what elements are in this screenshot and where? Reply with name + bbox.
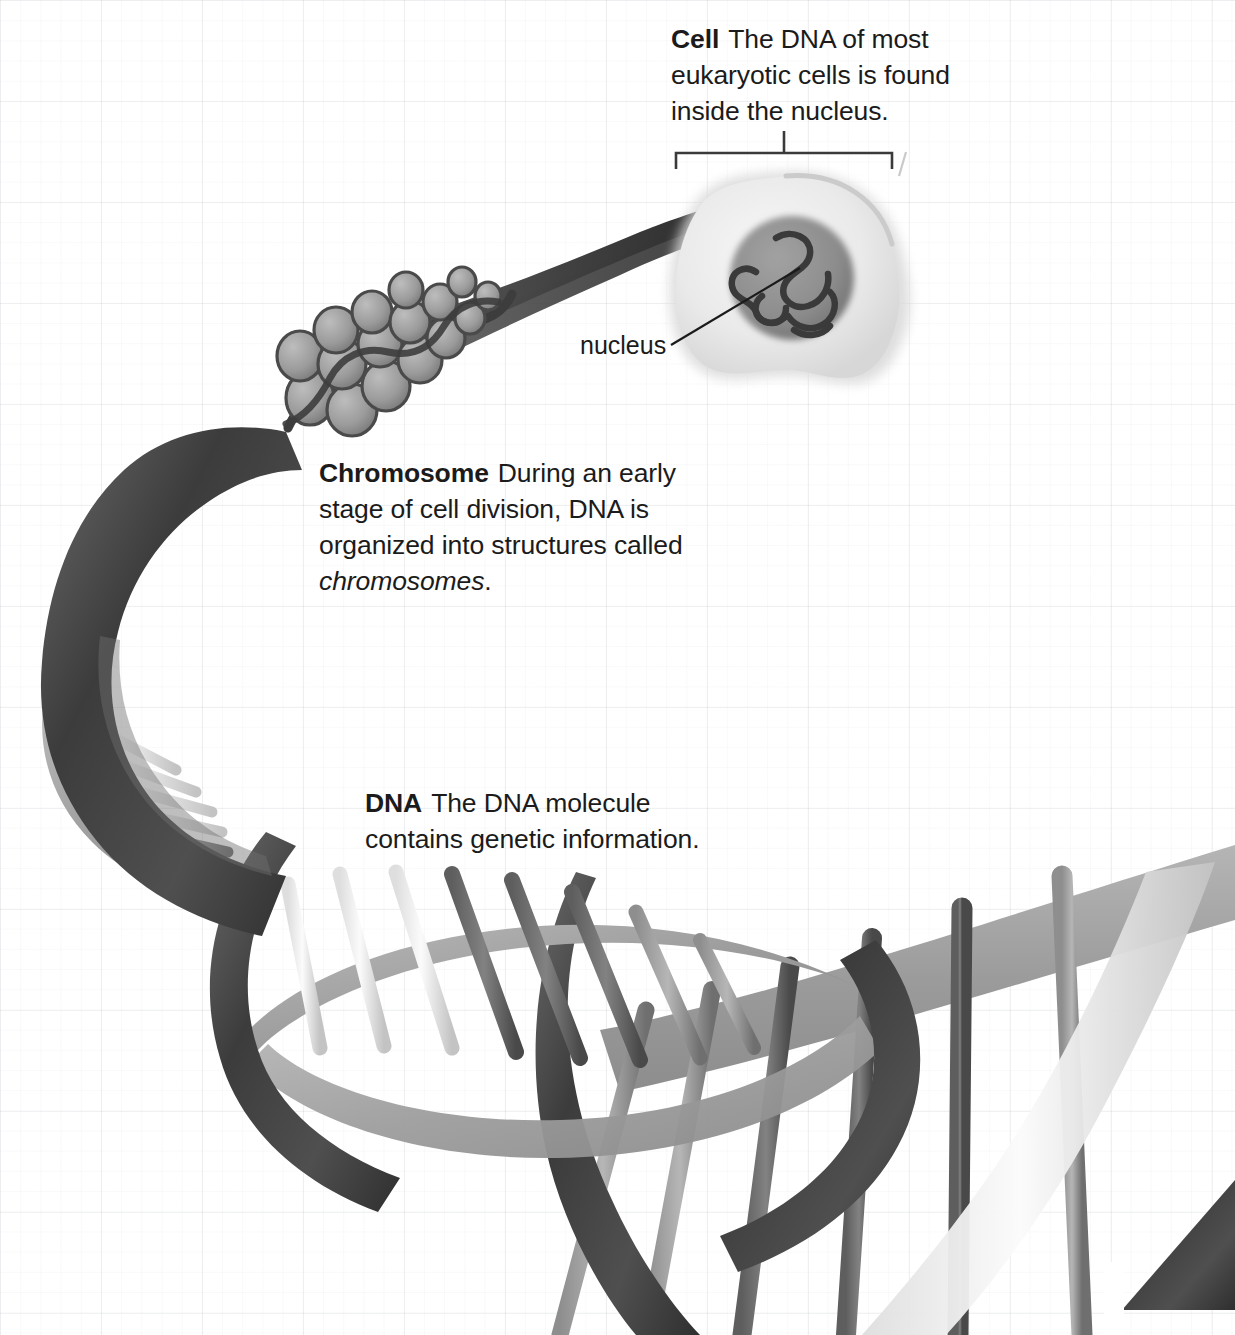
dna-base-pairs-mid [288, 872, 754, 1060]
cell-bracket [676, 131, 892, 169]
caption-chromosome-italic: chromosomes [319, 566, 484, 596]
bracket-stray-mark [899, 152, 906, 176]
caption-cell: CellThe DNA of most eukaryotic cells is … [671, 21, 951, 129]
caption-dna: DNAThe DNA molecule contains genetic inf… [365, 785, 705, 857]
caption-dna-term: DNA [365, 788, 422, 818]
caption-chromosome-body-end: . [484, 566, 491, 596]
figure-illustration [0, 0, 1235, 1335]
chromosome-structure [277, 206, 722, 436]
caption-chromosome-term: Chromosome [319, 458, 489, 488]
dna-double-helix-upper [41, 427, 302, 936]
eukaryotic-cell [670, 172, 910, 384]
dna-gap-spacer [1104, 1262, 1124, 1335]
caption-cell-term: Cell [671, 24, 719, 54]
dna-ribbon-fragment [1122, 1180, 1235, 1310]
dna-organization-figure: CellThe DNA of most eukaryotic cells is … [0, 0, 1235, 1335]
caption-chromosome: ChromosomeDuring an early stage of cell … [319, 455, 739, 599]
label-nucleus: nucleus [580, 331, 666, 360]
